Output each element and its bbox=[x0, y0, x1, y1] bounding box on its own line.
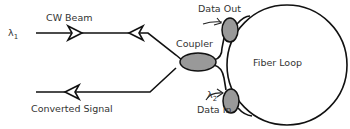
lambda2-label: λ2 bbox=[207, 89, 217, 103]
converted-signal-fiber bbox=[36, 68, 176, 92]
data-out-label: Data Out bbox=[198, 3, 241, 14]
main-coupler bbox=[180, 53, 216, 71]
data-out-coupler bbox=[222, 18, 238, 42]
cw-beam-fiber bbox=[36, 33, 182, 60]
lambda1-label: λ1 bbox=[8, 27, 18, 41]
coupler-to-data-out-fiber bbox=[214, 38, 224, 60]
data-in-label: Data In bbox=[197, 104, 232, 115]
coupler-label: Coupler bbox=[176, 38, 213, 49]
converted-signal-label: Converted Signal bbox=[31, 103, 113, 114]
cw-beam-label: CW Beam bbox=[46, 12, 92, 23]
coupler-to-data-in-fiber bbox=[214, 65, 226, 90]
fiber-loop-label: Fiber Loop bbox=[253, 57, 302, 68]
fiber-loop-diagram: λ1 CW Beam Coupler Data Out Fiber Loop λ… bbox=[0, 0, 350, 129]
